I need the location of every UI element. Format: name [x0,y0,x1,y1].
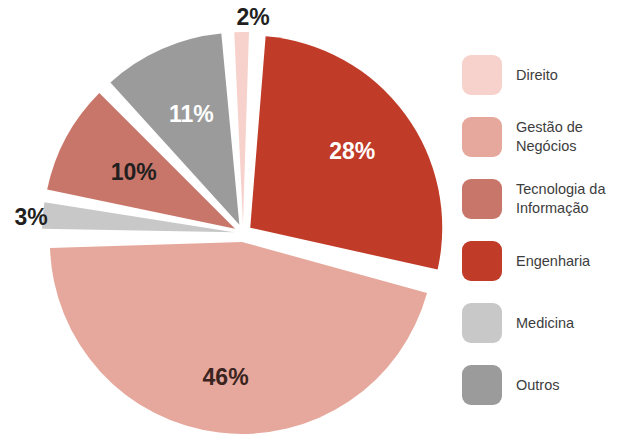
pie-chart-page: 2%28%46%3%10%11% DireitoGestão de Negóci… [0,0,644,447]
legend-item-label: Tecnologia da Informação [516,180,606,217]
legend-item-label: Engenharia [516,252,590,271]
pie-slice-value-label: 2% [236,4,269,30]
legend-item-label: Medicina [516,314,574,333]
legend-item[interactable]: Direito [462,44,644,106]
legend-item[interactable]: Tecnologia da Informação [462,168,644,230]
pie-chart-area: 2%28%46%3%10%11% [0,0,455,447]
pie-slice-value-label: 46% [203,364,249,390]
pie-slice[interactable] [50,242,427,434]
pie-slice-value-label: 28% [329,138,375,164]
legend-swatch [462,303,502,343]
legend-item-label: Outros [516,376,560,395]
legend-item[interactable]: Outros [462,354,644,416]
legend-item[interactable]: Gestão de Negócios [462,106,644,168]
pie-chart-svg: 2%28%46%3%10%11% [0,0,455,447]
legend-item-label: Gestão de Negócios [516,118,583,155]
legend-item[interactable]: Medicina [462,292,644,354]
legend-swatch [462,241,502,281]
chart-legend: DireitoGestão de NegóciosTecnologia da I… [462,44,644,416]
legend-swatch [462,365,502,405]
pie-slice-value-label: 3% [14,204,47,230]
legend-item-label: Direito [516,66,558,85]
pie-slice-value-label: 11% [169,101,214,127]
pie-slice-value-label: 10% [111,159,157,185]
legend-swatch [462,55,502,95]
legend-item[interactable]: Engenharia [462,230,644,292]
legend-swatch [462,179,502,219]
legend-swatch [462,117,502,157]
